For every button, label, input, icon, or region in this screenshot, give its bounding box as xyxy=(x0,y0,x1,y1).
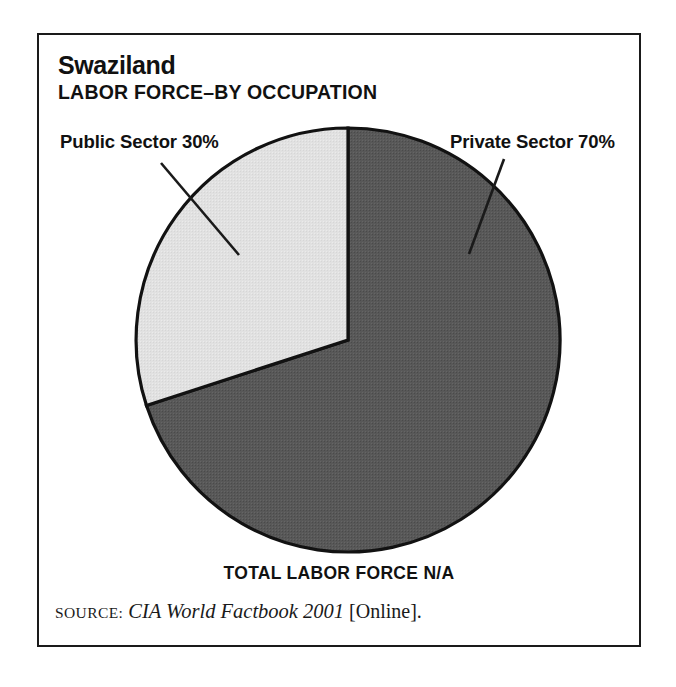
chart-title: Swaziland xyxy=(58,52,578,78)
source-line: SOURCE: CIA World Factbook 2001 [Online]… xyxy=(55,600,422,623)
source-prefix: SOURCE: xyxy=(55,604,123,621)
chart-subtitle: LABOR FORCE–BY OCCUPATION xyxy=(58,82,578,103)
pie-label-private-sector: Private Sector 70% xyxy=(450,131,615,153)
title-block: Swaziland LABOR FORCE–BY OCCUPATION xyxy=(58,52,578,104)
pie-label-public-sector: Public Sector 30% xyxy=(60,131,219,153)
total-labor-force-label: TOTAL LABOR FORCE N/A xyxy=(37,563,641,584)
source-suffix: [Online]. xyxy=(349,600,422,622)
chart-figure: Swaziland LABOR FORCE–BY OCCUPATION Publ… xyxy=(0,0,676,687)
source-publication: CIA World Factbook 2001 xyxy=(128,600,344,622)
